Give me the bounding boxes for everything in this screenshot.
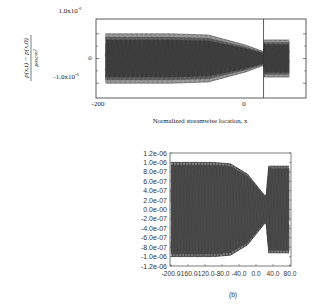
ylabel-numerator: p(x,t) − p(x,0) (22, 37, 30, 78)
panel-b: 1.2e-061.0e-068.0e-076.0e-074.0e-072.0e-… (141, 150, 297, 300)
ytick-label: 6.0e-07 (143, 178, 167, 185)
panel-a-ytick-zero: 0 (86, 56, 94, 60)
ytick-label: -1.0e-06 (141, 253, 167, 260)
ytick-label: 1.2e-06 (143, 150, 167, 157)
panel-a: 1.0x10-6 0 -1.0x10-6 p(x,t) − p(x,0) ρ∞c… (22, 6, 306, 124)
ytick-label: -4.0e-07 (141, 225, 167, 232)
xtick-label: -80.0 (214, 270, 229, 277)
panel-b-ytick-labels: 1.2e-061.0e-068.0e-076.0e-074.0e-072.0e-… (141, 150, 167, 270)
panel-a-ylabel: p(x,t) − p(x,0) ρ∞c∞² (22, 35, 39, 81)
ylabel-denominator: ρ∞c∞² (32, 48, 39, 67)
ytick-label: -1.2e-06 (141, 263, 167, 270)
ytick-label: 8.0e-07 (143, 168, 167, 175)
panel-b-xtick-labels: -200.0-160.0-120.0-80.0-40.00.040.080.0 (162, 270, 297, 277)
ytick-label: -8.0e-07 (141, 244, 167, 251)
ytick-label: -6.0e-07 (141, 234, 167, 241)
panel-b-caption: (b) (229, 291, 237, 299)
panel-a-traces (105, 34, 289, 83)
xtick-label: 40.0 (267, 270, 280, 277)
xtick-label: -40.0 (231, 270, 246, 277)
ytick-label: 4.0e-07 (143, 187, 167, 194)
xtick-label: 80.0 (284, 270, 297, 277)
ytick-label: -2.0e-07 (141, 215, 167, 222)
panel-a-ytick-label: -1.0x10-6 (53, 72, 79, 81)
xtick-label: 0.0 (251, 270, 260, 277)
panel-a-xtick-label: 0 (242, 100, 246, 108)
panel-a-ytick-label: 1.0x10-6 (59, 6, 83, 15)
xtick-label: -120.0 (196, 270, 215, 277)
ytick-label: 1.0e-06 (143, 159, 167, 166)
ytick-label: 2.0e-07 (143, 197, 167, 204)
panel-a-xlabel: Normalized streamwise location, x (153, 117, 248, 124)
figure: 1.0x10-6 0 -1.0x10-6 p(x,t) − p(x,0) ρ∞c… (0, 0, 317, 305)
panel-a-xtick-label: -200 (92, 100, 105, 108)
ytick-label: 0.0e-00 (143, 206, 167, 213)
panel-b-traces (171, 162, 289, 256)
